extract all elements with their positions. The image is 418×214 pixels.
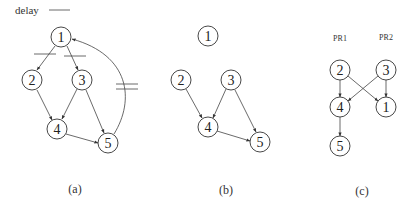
caption-b: (b): [219, 183, 233, 197]
svg-text:3: 3: [79, 73, 86, 88]
legend: delay: [15, 4, 70, 16]
panel-a: 1 2 3 4 5 (a): [22, 27, 138, 196]
edge-3-4: [213, 89, 226, 118]
caption-c: (c): [355, 184, 368, 198]
edge-2-4: [186, 89, 202, 118]
edge-1-3: [67, 46, 78, 70]
node-1: 1: [51, 27, 71, 47]
node-3: 3: [72, 70, 92, 90]
svg-text:1: 1: [58, 30, 65, 45]
svg-text:5: 5: [257, 135, 264, 150]
edge-2-4: [37, 90, 52, 120]
caption-a: (a): [68, 182, 81, 196]
svg-text:5: 5: [337, 139, 344, 154]
svg-text:1: 1: [205, 29, 212, 44]
node-4: 4: [47, 119, 67, 139]
node-1: 1: [198, 26, 218, 46]
svg-text:4: 4: [54, 122, 61, 137]
node-5: 5: [250, 132, 270, 152]
node-5: 5: [98, 133, 118, 153]
panel-b: 1 2 3 4 5 (b): [171, 26, 270, 197]
svg-text:2: 2: [178, 73, 185, 88]
node-1: 1: [376, 97, 396, 117]
diagram-canvas: delay 1 2 3 4 5 (a) 1 2 3 4 5 (b): [0, 0, 418, 214]
node-3: 3: [376, 60, 396, 80]
edge-1-2: [37, 46, 55, 70]
svg-text:5: 5: [105, 136, 112, 151]
svg-text:2: 2: [29, 73, 36, 88]
svg-text:4: 4: [337, 100, 344, 115]
node-4: 4: [198, 117, 218, 137]
edge-3-5: [235, 90, 256, 132]
edge-4-5: [66, 134, 98, 143]
node-2: 2: [171, 70, 191, 90]
processor-label-pr1: PR1: [333, 34, 347, 43]
legend-label: delay: [15, 4, 39, 16]
svg-text:2: 2: [337, 63, 344, 78]
edge-3-4: [62, 89, 77, 119]
task-graph-figure: delay 1 2 3 4 5 (a) 1 2 3 4 5 (b): [0, 0, 418, 214]
edge-3-5: [86, 90, 104, 133]
node-5: 5: [330, 136, 350, 156]
panel-c: PR1 PR2 2 3 4 1 5 (c): [330, 33, 396, 198]
edge-4-5: [217, 131, 250, 141]
svg-text:4: 4: [205, 120, 212, 135]
node-2: 2: [330, 60, 350, 80]
node-4: 4: [330, 97, 350, 117]
node-2: 2: [22, 70, 42, 90]
svg-text:1: 1: [383, 100, 390, 115]
svg-text:3: 3: [383, 63, 390, 78]
node-3: 3: [221, 70, 241, 90]
svg-text:3: 3: [228, 73, 235, 88]
processor-label-pr2: PR2: [379, 33, 393, 42]
